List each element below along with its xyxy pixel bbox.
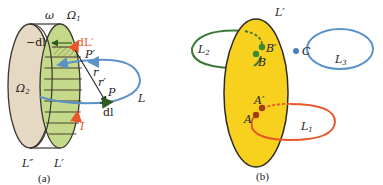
- label-r-prime: r′: [98, 76, 106, 89]
- label-minus-dl: −dl: [26, 36, 46, 49]
- label-B: B: [257, 56, 266, 69]
- caption-a: (a): [38, 172, 51, 185]
- panel-a: ω Ω1 Ω2 −dl dL′ P′ r r′ P L dl I L″ L′ (…: [8, 9, 145, 185]
- surface-L-prime: [224, 19, 288, 167]
- label-L1: L1: [300, 120, 313, 134]
- diagram-canvas: ω Ω1 Ω2 −dl dL′ P′ r r′ P L dl I L″ L′ (…: [0, 0, 383, 185]
- panel-b: L′ L2 B′ B C L3 A′ A L1 (b): [192, 6, 373, 183]
- label-L3: L3: [334, 53, 347, 67]
- caption-b: (b): [256, 170, 269, 183]
- point-C: [293, 48, 299, 54]
- label-L-double-prime: L″: [21, 157, 34, 170]
- label-A: A: [243, 113, 252, 126]
- label-C: C: [302, 45, 311, 58]
- label-dl: dl: [103, 106, 114, 119]
- label-omega: ω: [45, 9, 54, 22]
- label-P: P: [107, 86, 116, 99]
- current-I-arrow: [76, 116, 77, 123]
- hatched-element: [54, 47, 76, 57]
- dl-arrow: [100, 102, 112, 103]
- label-L: L: [137, 92, 145, 105]
- label-omega1: Ω1: [66, 9, 81, 23]
- label-B-prime: B′: [265, 42, 277, 55]
- label-P-prime: P′: [84, 48, 95, 61]
- label-A-prime: A′: [253, 94, 265, 107]
- label-I: I: [79, 120, 85, 133]
- label-L-prime-b: L′: [274, 6, 285, 19]
- label-L-prime-a: L′: [53, 157, 64, 170]
- point-B-prime: [259, 44, 265, 50]
- point-A: [253, 112, 259, 118]
- label-L2: L2: [197, 43, 210, 57]
